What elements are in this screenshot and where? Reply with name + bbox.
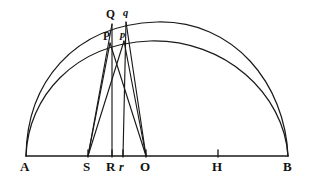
point-label-p: p — [120, 30, 125, 41]
arcs-group — [26, 22, 288, 156]
point-label-Q: Q — [106, 9, 115, 21]
point-label-S: S — [83, 160, 90, 173]
point-label-R: R — [106, 160, 116, 173]
point-label-B: B — [283, 160, 292, 173]
point-label-A: A — [20, 160, 30, 173]
point-label-r: r — [119, 161, 124, 173]
outer-circle-arc-AQB — [26, 22, 288, 156]
point-label-P: P — [103, 31, 110, 43]
point-label-q: q — [123, 8, 128, 19]
figure-canvas — [0, 0, 312, 185]
geometric-figure: ASRrOHBQqPp — [0, 0, 312, 185]
point-label-H: H — [212, 160, 222, 173]
point-label-O: O — [140, 160, 150, 173]
